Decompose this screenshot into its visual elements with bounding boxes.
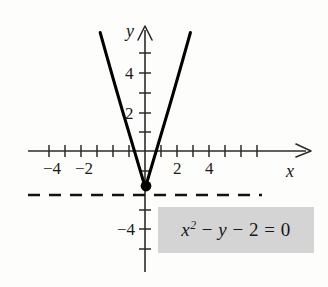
equation-equals: = — [264, 219, 275, 240]
equation-exponent: 2 — [190, 219, 196, 232]
y-tick-label-neg4: −4 — [117, 221, 135, 238]
equation-minus-2: − — [233, 219, 244, 240]
vertex-point-marker — [141, 181, 152, 192]
y-axis — [138, 26, 152, 272]
x-tick-label-pos2: 2 — [173, 160, 182, 177]
equation-minus-1: − — [202, 219, 213, 240]
x-tick-label-neg4: −4 — [43, 160, 61, 177]
x-tick-label-pos4: 4 — [205, 160, 214, 177]
equation-text: x2 − y − 2 = 0 — [181, 219, 290, 241]
x-tick-label-neg2: −2 — [75, 160, 93, 177]
equation-constant: 2 — [249, 219, 259, 240]
y-tick-label-pos4: 4 — [125, 65, 134, 82]
parabola-figure: −4 −2 2 4 4 2 −4 x y x2 − y − 2 = 0 — [0, 0, 328, 287]
equation-var-x: x — [181, 219, 190, 240]
equation-var-y: y — [218, 219, 227, 240]
y-axis-label: y — [126, 22, 134, 40]
x-axis-label: x — [286, 162, 294, 180]
x-axis — [28, 144, 311, 157]
equation-callout-box: x2 − y − 2 = 0 — [158, 207, 314, 253]
equation-rhs: 0 — [281, 219, 291, 240]
y-tick-label-pos2: 2 — [125, 105, 134, 122]
